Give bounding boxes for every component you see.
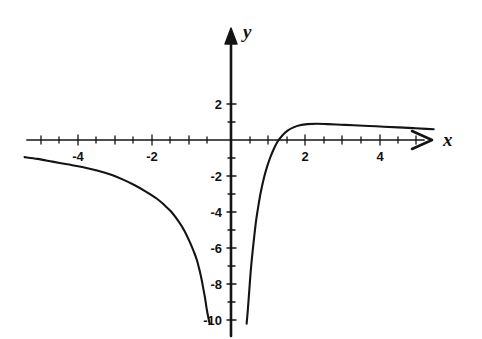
x-tick-label: -2 — [146, 150, 158, 163]
y-tick-label: -2 — [210, 170, 222, 183]
y-tick-label: -6 — [210, 242, 222, 255]
y-axis-label: y — [243, 22, 251, 41]
y-tick-label: -8 — [210, 278, 222, 291]
curve-left-branch — [25, 157, 210, 324]
y-tick-label: -10 — [203, 314, 222, 327]
x-axis-label: x — [443, 130, 453, 149]
curve-right-branch — [247, 124, 434, 324]
y-tick-label: -4 — [210, 206, 222, 219]
x-tick-label: -4 — [72, 150, 84, 163]
y-axis-arrow-icon — [225, 28, 237, 44]
x-tick-label: 4 — [376, 150, 383, 163]
x-tick-label: 2 — [301, 150, 308, 163]
y-tick-label: 2 — [215, 98, 222, 111]
plot-canvas — [0, 0, 482, 339]
graph-figure: x y -4-224 2-2-4-6-8-10 — [0, 0, 482, 339]
